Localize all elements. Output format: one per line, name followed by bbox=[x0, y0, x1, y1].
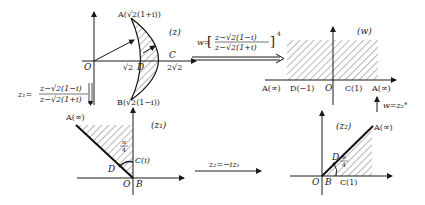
double-arrow-head bbox=[276, 54, 284, 63]
w-eq-exponent: 4 bbox=[277, 30, 281, 37]
z1-point-c-label: C(i) bbox=[135, 156, 150, 165]
z2-plane-label: (z₂) bbox=[336, 121, 352, 131]
mapping-z-to-w: w= [ z−√2(1−i) z−√2(1+i) ] 4 bbox=[192, 30, 284, 63]
w-label-a-left: A(∞) bbox=[261, 84, 281, 93]
right-bracket: ] bbox=[270, 34, 275, 49]
z2-point-c-label: C(1) bbox=[340, 178, 357, 187]
point-b-label: B(√2(1−i)) bbox=[117, 98, 160, 107]
z2-angle-num: π bbox=[342, 153, 346, 160]
tick-sqrt2: √2 bbox=[123, 63, 133, 72]
z2-eq: z₂=−iz₁ bbox=[208, 160, 240, 169]
w-eq-z2: w=z₂⁴ bbox=[383, 101, 407, 110]
w-label-c: C(1) bbox=[345, 84, 362, 93]
w-plane-panel: (w) A(∞) D(−1) O C(1) A(∞) bbox=[261, 26, 396, 105]
z2-point-d-dot bbox=[333, 163, 336, 166]
z2-angle-den: 4 bbox=[342, 161, 346, 168]
z1-angle-num: π bbox=[122, 138, 126, 145]
z1-point-d-dot bbox=[119, 165, 122, 168]
z1-angle-den: 4 bbox=[122, 146, 126, 153]
z2-point-d-label: D bbox=[331, 152, 339, 162]
w-label-d: D(−1) bbox=[290, 84, 314, 93]
w-label-a-right: A(∞) bbox=[371, 84, 391, 93]
z1-point-d-label: D bbox=[107, 164, 115, 174]
z2-plane-panel: (z₂) A(∞) D π 4 O B C(1) bbox=[290, 111, 393, 195]
point-a-label: A(√2(1+i)) bbox=[117, 10, 161, 19]
z2-origin-label: O bbox=[312, 177, 320, 187]
mapping-z2-to-w: w=z₂⁴ bbox=[377, 97, 407, 112]
radius-vector bbox=[94, 40, 134, 61]
w-plane-label: (w) bbox=[357, 26, 372, 36]
z-plane-label: (z) bbox=[169, 27, 181, 37]
z-origin-label: O bbox=[84, 62, 92, 72]
z-plane-panel: O A(√2(1+i)) B(√2(1−i)) (z) C √2 D 2√2 bbox=[82, 10, 196, 107]
z2-point-b-label: B bbox=[324, 177, 332, 187]
w-eq-numerator: z−√2(1−i) bbox=[214, 33, 257, 42]
point-d-label: D bbox=[136, 62, 144, 72]
z1-origin-label: O bbox=[123, 179, 131, 189]
z2-point-a-label: A(∞) bbox=[373, 123, 393, 132]
crescent-region bbox=[131, 18, 159, 100]
z1-eq-denominator: z−√2(1+i) bbox=[39, 95, 82, 104]
mapping-z1-to-z2: z₂=−iz₁ bbox=[195, 160, 261, 171]
z1-point-a-label: A(∞) bbox=[65, 113, 85, 122]
mapping-z-to-z1: z₁= z−√2(1−i) z−√2(1+i) bbox=[17, 83, 93, 106]
z1-eq-lhs: z₁= bbox=[17, 90, 32, 99]
z1-plane-panel: A(∞) (z₁) π 4 C(i) D O B bbox=[65, 108, 184, 195]
z1-plane-label: (z₁) bbox=[151, 120, 167, 130]
left-bracket: [ bbox=[207, 34, 212, 49]
conformal-mapping-diagram: O A(√2(1+i)) B(√2(1−i)) (z) C √2 D 2√2 w… bbox=[0, 0, 425, 205]
w-eq-denominator: z−√2(1+i) bbox=[214, 43, 257, 52]
z1-eq-numerator: z−√2(1−i) bbox=[39, 84, 82, 93]
w-origin-label: O bbox=[325, 83, 333, 93]
z1-point-b-label: B bbox=[135, 179, 143, 189]
tick-2sqrt2: 2√2 bbox=[167, 63, 182, 72]
point-c-label: C bbox=[169, 50, 176, 60]
